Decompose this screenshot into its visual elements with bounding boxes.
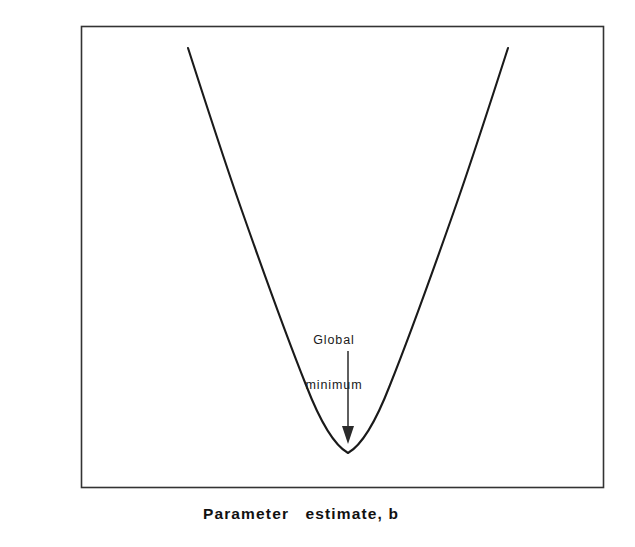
x-axis-label: Parameter estimate, b bbox=[81, 505, 521, 523]
annotation-line-1: Global bbox=[278, 333, 390, 348]
figure-canvas: Residual sum of squares, RSS Global mini… bbox=[0, 0, 635, 547]
annotation-line-2: minimum bbox=[278, 378, 390, 393]
global-minimum-annotation: Global minimum bbox=[278, 303, 390, 423]
plot-area bbox=[0, 0, 635, 547]
